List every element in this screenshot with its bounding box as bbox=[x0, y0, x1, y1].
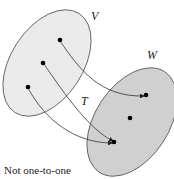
caption: Not one-to-one bbox=[4, 164, 71, 176]
w-point-3 bbox=[112, 140, 117, 145]
v-point-3 bbox=[26, 85, 31, 90]
w-point-1 bbox=[144, 93, 149, 98]
v-point-1 bbox=[58, 38, 63, 43]
diagram-canvas bbox=[0, 0, 174, 179]
v-point-2 bbox=[41, 61, 46, 66]
mapping-diagram: V W T Not one-to-one bbox=[0, 0, 174, 179]
set-v-label: V bbox=[91, 9, 98, 24]
set-w-label: W bbox=[147, 48, 157, 63]
w-point-2 bbox=[128, 116, 133, 121]
mapping-label: T bbox=[81, 94, 88, 109]
